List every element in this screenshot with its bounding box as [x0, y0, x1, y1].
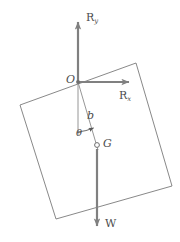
point-g-marker	[95, 143, 100, 148]
label-reaction-x: Rx	[119, 90, 131, 101]
point-o-marker	[76, 80, 80, 84]
label-weight-w: W	[105, 218, 116, 229]
label-moment-arm-b: b	[87, 110, 94, 121]
label-reaction-x-subscript: x	[127, 95, 131, 103]
label-point-g: G	[103, 138, 112, 149]
label-reaction-y: Ry	[86, 12, 98, 23]
figure-canvas: Ry Rx O G b θ W	[0, 0, 180, 242]
label-angle-theta: θ	[76, 128, 82, 138]
label-point-o: O	[66, 74, 75, 85]
label-reaction-y-subscript: y	[94, 17, 98, 25]
